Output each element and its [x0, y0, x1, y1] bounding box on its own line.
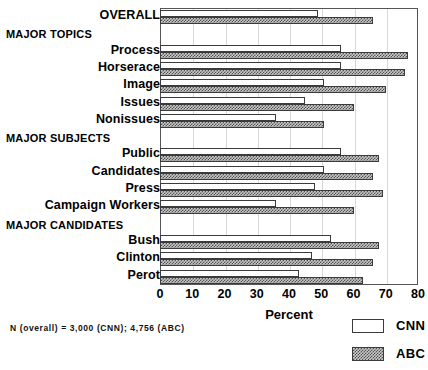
bar-cnn: [160, 270, 299, 277]
x-tick-10: 10: [177, 287, 207, 301]
x-tick-0: 0: [145, 287, 175, 301]
group-header-row: MAJOR TOPICS: [0, 25, 428, 42]
bar-cnn: [160, 235, 331, 242]
row-label-campaign-workers: Campaign Workers: [45, 199, 160, 212]
row-label-perot: Perot: [128, 269, 160, 282]
bar-abc: [160, 86, 386, 93]
bar-cnn: [160, 183, 315, 190]
chart-row: Nonissues: [0, 112, 428, 129]
bar-cnn: [160, 148, 341, 155]
row-label-major-topics: MAJOR TOPICS: [6, 28, 92, 41]
bar-abc: [160, 17, 373, 24]
row-label-clinton: Clinton: [116, 251, 160, 264]
bar-abc: [160, 259, 373, 266]
bar-abc: [160, 104, 354, 111]
x-tick-30: 30: [242, 287, 272, 301]
legend-swatch-cnn: [352, 319, 384, 333]
row-label-public: Public: [122, 147, 160, 160]
chart-row: Process: [0, 43, 428, 60]
row-label-bush: Bush: [128, 234, 160, 247]
chart-row: Bush: [0, 233, 428, 250]
bar-abc: [160, 242, 379, 249]
bar-cnn: [160, 79, 324, 86]
x-tick-60: 60: [339, 287, 369, 301]
bar-abc: [160, 52, 408, 59]
bar-cnn: [160, 62, 341, 69]
x-tick-20: 20: [210, 287, 240, 301]
x-tick-50: 50: [306, 287, 336, 301]
chart-row: Press: [0, 181, 428, 198]
legend-item-abc: ABC: [352, 346, 425, 361]
row-label-nonissues: Nonissues: [96, 113, 160, 126]
row-label-horserace: Horserace: [98, 61, 160, 74]
bar-abc: [160, 190, 383, 197]
group-header-row: MAJOR CANDIDATES: [0, 216, 428, 233]
chart-rows: OVERALLMAJOR TOPICSProcessHorseraceImage…: [0, 8, 428, 285]
row-label-press: Press: [125, 182, 160, 195]
bar-cnn: [160, 200, 276, 207]
bar-abc: [160, 277, 363, 284]
chart-row: Campaign Workers: [0, 198, 428, 215]
bar-cnn: [160, 45, 341, 52]
footnote: N (overall) = 3,000 (CNN); 4,756 (ABC): [10, 323, 185, 333]
bar-chart: OVERALLMAJOR TOPICSProcessHorseraceImage…: [0, 0, 428, 370]
legend-swatch-abc: [352, 347, 384, 361]
bar-abc: [160, 121, 324, 128]
row-label-issues: Issues: [120, 96, 160, 109]
chart-row: OVERALL: [0, 8, 428, 25]
legend-label-cnn: CNN: [396, 318, 425, 333]
chart-row: Issues: [0, 95, 428, 112]
row-label-overall: OVERALL: [100, 9, 160, 22]
bar-abc: [160, 207, 354, 214]
row-label-process: Process: [111, 44, 160, 57]
bar-cnn: [160, 114, 276, 121]
x-tick-70: 70: [371, 287, 401, 301]
chart-row: Image: [0, 77, 428, 94]
chart-row: Public: [0, 146, 428, 163]
row-label-major-candidates: MAJOR CANDIDATES: [6, 219, 123, 232]
bar-abc: [160, 155, 379, 162]
group-header-row: MAJOR SUBJECTS: [0, 129, 428, 146]
chart-row: Horserace: [0, 60, 428, 77]
row-label-candidates: Candidates: [92, 165, 160, 178]
bar-abc: [160, 69, 405, 76]
bar-cnn: [160, 166, 324, 173]
bar-cnn: [160, 97, 305, 104]
x-axis-ticks: 01020304050607080: [0, 287, 428, 305]
bar-cnn: [160, 10, 318, 17]
chart-row: Clinton: [0, 250, 428, 267]
legend-item-cnn: CNN: [352, 318, 425, 333]
row-label-image: Image: [123, 78, 160, 91]
bar-abc: [160, 173, 373, 180]
x-tick-80: 80: [403, 287, 428, 301]
bar-cnn: [160, 252, 312, 259]
row-label-major-subjects: MAJOR SUBJECTS: [6, 132, 110, 145]
chart-row: Candidates: [0, 164, 428, 181]
x-tick-40: 40: [274, 287, 304, 301]
legend-label-abc: ABC: [396, 346, 425, 361]
chart-row: Perot: [0, 268, 428, 285]
